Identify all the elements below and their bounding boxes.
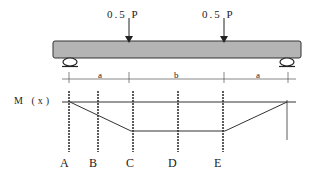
dim-label-b: b [174, 71, 179, 80]
diagram-svg [0, 0, 315, 176]
load-arrow-left-icon [125, 18, 133, 43]
section-label-a: A [60, 157, 69, 169]
section-label-b: B [89, 157, 97, 169]
section-lines [69, 91, 223, 152]
support-left-icon [62, 58, 78, 67]
load-label-right: 0.5 P [202, 9, 235, 20]
moment-diagram [62, 100, 296, 140]
section-label-c: C [126, 157, 134, 169]
dim-label-a-left: a [98, 71, 102, 80]
dim-label-a-right: a [256, 71, 260, 80]
load-arrow-right-icon [220, 18, 228, 43]
section-label-e: E [214, 157, 221, 169]
load-label-left: 0.5 P [107, 9, 140, 20]
section-label-d: D [168, 157, 177, 169]
beam-diagram: 0.5 P 0.5 P a b a M (x) A B C D E [0, 0, 315, 176]
moment-axis-label: M (x) [14, 96, 52, 106]
beam [53, 41, 301, 58]
support-right-icon [279, 58, 295, 67]
